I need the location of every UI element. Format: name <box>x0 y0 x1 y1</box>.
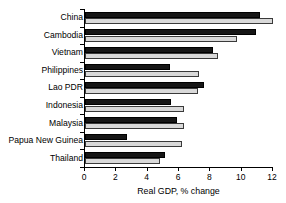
y-tick <box>80 132 84 133</box>
bar-light-series <box>85 158 160 164</box>
x-tick-label: 10 <box>229 172 253 182</box>
y-tick <box>80 97 84 98</box>
bar-group: Lao PDR <box>85 79 281 97</box>
bar-dark-series <box>85 117 177 123</box>
y-tick <box>80 62 84 63</box>
x-tick-label: 2 <box>103 172 127 182</box>
bar-light-series <box>85 141 182 147</box>
bar-group: Indonesia <box>85 97 281 115</box>
category-label: Vietnam <box>3 47 83 57</box>
bar-group: Philippines <box>85 62 281 80</box>
bar-light-series <box>85 71 199 77</box>
bar-dark-series <box>85 152 165 158</box>
x-tick <box>272 167 273 171</box>
plot-area: 024681012 ChinaCambodiaVietnamPhilippine… <box>0 0 286 203</box>
bar-dark-series <box>85 29 256 35</box>
bar-light-series <box>85 106 184 112</box>
category-label: Malaysia <box>3 118 83 128</box>
bar-light-series <box>85 123 184 129</box>
x-tick <box>147 167 148 171</box>
category-label: Papua New Guinea <box>3 135 83 145</box>
y-tick <box>80 9 84 10</box>
bar-light-series <box>85 36 237 42</box>
gdp-bar-chart-figure: 024681012 ChinaCambodiaVietnamPhilippine… <box>0 0 286 203</box>
category-label: Cambodia <box>3 30 83 40</box>
bar-dark-series <box>85 47 213 53</box>
bar-group: China <box>85 9 281 27</box>
x-tick <box>178 167 179 171</box>
bar-group: Malaysia <box>85 114 281 132</box>
x-tick <box>241 167 242 171</box>
y-tick <box>80 27 84 28</box>
x-tick-label: 6 <box>166 172 190 182</box>
bar-light-series <box>85 18 273 24</box>
category-label: Philippines <box>3 65 83 75</box>
x-tick-label: 8 <box>197 172 221 182</box>
category-label: Lao PDR <box>3 82 83 92</box>
bar-group: Vietnam <box>85 44 281 62</box>
bar-light-series <box>85 53 218 59</box>
bar-dark-series <box>85 12 260 18</box>
x-tick-label: 4 <box>135 172 159 182</box>
x-tick <box>115 167 116 171</box>
y-tick <box>80 44 84 45</box>
y-tick <box>80 167 84 168</box>
bar-dark-series <box>85 134 127 140</box>
x-tick-label: 0 <box>72 172 96 182</box>
bar-light-series <box>85 88 198 94</box>
category-label: Thailand <box>3 153 83 163</box>
y-tick <box>80 149 84 150</box>
x-tick <box>209 167 210 171</box>
bar-group: Cambodia <box>85 27 281 45</box>
bar-dark-series <box>85 64 170 70</box>
x-tick <box>84 167 85 171</box>
category-label: China <box>3 12 83 22</box>
y-tick <box>80 79 84 80</box>
bar-group: Thailand <box>85 149 281 167</box>
bar-dark-series <box>85 82 204 88</box>
x-tick-label: 12 <box>260 172 284 182</box>
y-tick <box>80 114 84 115</box>
x-axis-title: Real GDP, % change <box>84 186 273 197</box>
bar-group: Papua New Guinea <box>85 132 281 150</box>
category-label: Indonesia <box>3 100 83 110</box>
bar-dark-series <box>85 99 171 105</box>
